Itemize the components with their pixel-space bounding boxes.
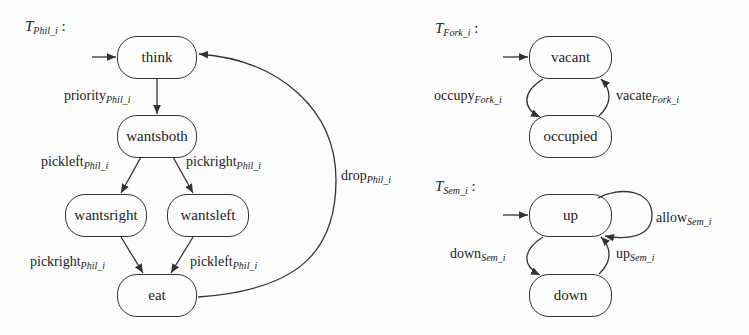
label-allow: allowSem_i bbox=[656, 210, 712, 227]
label-occupy: occupyFork_i bbox=[434, 88, 502, 105]
label-down: downSem_i bbox=[450, 246, 506, 263]
label-pickleft-1: pickleftPhil_i bbox=[41, 154, 108, 171]
state-eat: eat bbox=[117, 274, 197, 317]
label-up: upSem_i bbox=[616, 246, 654, 263]
state-wantsright: wantsright bbox=[65, 194, 147, 237]
phil-title: TPhil_i : bbox=[25, 18, 66, 36]
label-priority: priorityPhil_i bbox=[64, 88, 130, 105]
state-vacant: vacant bbox=[529, 36, 612, 79]
state-think: think bbox=[117, 36, 197, 79]
state-wantsboth: wantsboth bbox=[117, 115, 197, 158]
fork-title: TFork_i : bbox=[435, 20, 478, 38]
state-occupied: occupied bbox=[529, 115, 612, 158]
state-up: up bbox=[529, 194, 612, 237]
state-down: down bbox=[529, 274, 612, 317]
label-pickleft-2: pickleftPhil_i bbox=[190, 254, 257, 271]
state-wantsleft: wantsleft bbox=[167, 194, 249, 237]
label-pickright-1: pickrightPhil_i bbox=[186, 154, 261, 171]
label-drop: dropPhil_i bbox=[341, 168, 391, 185]
label-vacate: vacateFork_i bbox=[616, 88, 679, 105]
sem-title: TSem_i : bbox=[435, 178, 476, 196]
label-pickright-2: pickrightPhil_i bbox=[30, 254, 105, 271]
